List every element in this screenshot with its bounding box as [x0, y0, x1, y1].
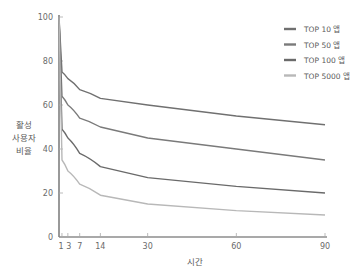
- series-line-2: [59, 17, 325, 160]
- x-tick-label: 14: [95, 242, 105, 251]
- retention-line-chart: 02040608010013714306090 TOP 10 앱TOP 50 앱…: [0, 0, 357, 277]
- x-tick-label: 3: [66, 242, 71, 251]
- x-tick-label: 1: [58, 242, 63, 251]
- y-axis-title: 비율: [16, 146, 32, 156]
- legend-label: TOP 10 앱: [303, 25, 340, 34]
- series-line-1: [59, 17, 325, 125]
- y-tick-label: 0: [48, 233, 53, 242]
- legend-item: TOP 5000 앱: [284, 72, 350, 81]
- legend-label: TOP 100 앱: [303, 56, 345, 65]
- y-axis-title: 사용자: [12, 133, 36, 143]
- axis-ticks: 02040608010013714306090: [38, 13, 330, 251]
- legend-label: TOP 50 앱: [303, 41, 340, 50]
- x-tick-label: 7: [77, 242, 82, 251]
- legend-label: TOP 5000 앱: [303, 72, 350, 81]
- y-tick-label: 80: [43, 57, 53, 66]
- legend-item: TOP 100 앱: [284, 56, 345, 65]
- legend-item: TOP 10 앱: [284, 25, 340, 34]
- y-axis-title: 활성: [16, 120, 32, 130]
- axis-titles: 활성사용자비율시간: [12, 120, 203, 267]
- x-axis-title: 시간: [187, 257, 203, 267]
- x-tick-label: 30: [143, 242, 153, 251]
- legend: TOP 10 앱TOP 50 앱TOP 100 앱TOP 5000 앱: [284, 25, 350, 81]
- y-tick-label: 40: [43, 145, 53, 154]
- y-tick-label: 100: [38, 13, 53, 22]
- y-tick-label: 20: [43, 189, 53, 198]
- legend-item: TOP 50 앱: [284, 41, 340, 50]
- series-line-4: [59, 17, 325, 215]
- y-tick-label: 60: [43, 101, 53, 110]
- x-tick-label: 60: [231, 242, 241, 251]
- x-tick-label: 90: [320, 242, 330, 251]
- series-lines: [59, 17, 325, 215]
